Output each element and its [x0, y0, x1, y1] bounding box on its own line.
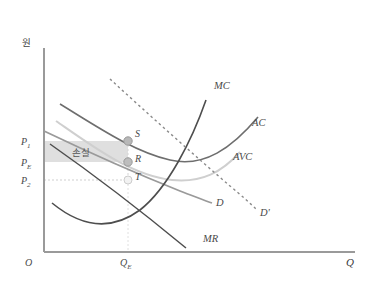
curve-label-demand: D — [215, 197, 224, 208]
point-t-marker — [124, 176, 132, 184]
curve-label-mr: MR — [202, 233, 219, 244]
economics-diagram: 원 Q O P1 PE P2 QE MC AC AVC D D' MR S R … — [0, 0, 382, 288]
point-label-r: R — [134, 153, 141, 164]
point-label-s: S — [135, 128, 140, 139]
curve-demand-prime — [110, 79, 256, 209]
y-tick-p2: P2 — [20, 175, 31, 189]
curve-label-demand-prime: D' — [259, 207, 271, 218]
curve-label-avc: AVC — [232, 151, 253, 162]
y-tick-pe: PE — [20, 157, 32, 171]
y-axis-label: 원 — [22, 37, 31, 48]
y-tick-p1: P1 — [20, 136, 31, 150]
curve-label-mc: MC — [213, 80, 231, 91]
x-tick-qe: QE — [120, 257, 132, 271]
point-s-marker — [124, 137, 132, 145]
loss-region-label: 손실 — [72, 147, 90, 158]
origin-label: O — [25, 257, 32, 268]
diagram-canvas: 원 Q O P1 PE P2 QE MC AC AVC D D' MR S R … — [0, 0, 382, 288]
x-axis-label: Q — [346, 256, 354, 268]
curve-label-ac: AC — [251, 117, 266, 128]
point-r-marker — [124, 158, 132, 166]
